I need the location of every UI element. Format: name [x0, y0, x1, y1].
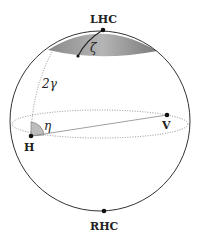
- h-point: [29, 134, 34, 139]
- h-to-v-line: [31, 115, 167, 136]
- two-gamma-label: 2γ: [41, 77, 58, 91]
- rhc-label: RHC: [90, 220, 119, 233]
- v-label: V: [161, 119, 171, 132]
- v-point: [165, 113, 170, 118]
- h-label: H: [24, 141, 34, 154]
- lhc-label: LHC: [90, 13, 117, 26]
- polar-cap: [48, 34, 157, 57]
- lhc-point: [101, 28, 106, 33]
- eta-label: η: [44, 119, 52, 133]
- rhc-point: [102, 209, 107, 214]
- poincare-sphere-diagram: LHC RHC H V ζ η 2γ: [0, 0, 199, 241]
- zeta-end-point: [76, 54, 79, 57]
